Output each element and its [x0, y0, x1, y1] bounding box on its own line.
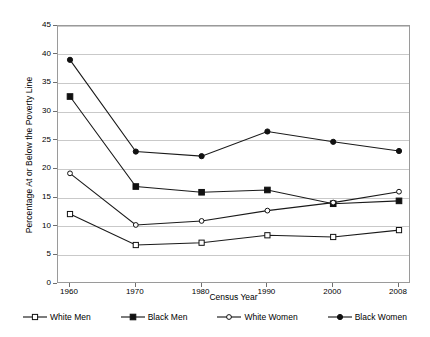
data-point [396, 148, 401, 153]
x-tick-mark [332, 283, 333, 287]
legend-item-black-women: Black Women [328, 312, 407, 322]
data-point [331, 139, 336, 144]
legend-item-white-men: White Men [23, 312, 91, 322]
y-tick-mark [53, 139, 57, 140]
data-point [68, 171, 73, 176]
data-point [199, 240, 204, 245]
data-point [133, 149, 138, 154]
y-tick-mark [53, 254, 57, 255]
legend-label: White Women [244, 312, 297, 322]
y-tick-label: 0 [11, 279, 51, 287]
y-tick-label: 40 [11, 50, 51, 58]
data-point [67, 94, 73, 100]
x-tick-mark [69, 283, 70, 287]
y-tick-label: 5 [11, 250, 51, 258]
series-white-women [68, 171, 402, 227]
chart-legend: White MenBlack MenWhite WomenBlack Women [0, 312, 430, 322]
data-point [199, 154, 204, 159]
data-point [397, 189, 402, 194]
y-tick-label: 25 [11, 136, 51, 144]
data-point [396, 198, 402, 204]
y-tick-mark [53, 168, 57, 169]
data-point [331, 200, 336, 205]
data-point [133, 242, 138, 247]
y-tick-label: 20 [11, 164, 51, 172]
plot-area [57, 25, 410, 283]
data-point [133, 223, 138, 228]
data-point [199, 219, 204, 224]
y-tick-mark [53, 197, 57, 198]
data-point [67, 211, 72, 216]
x-tick-mark [398, 283, 399, 287]
legend-marker-filled-circle-icon [328, 312, 352, 322]
x-tick-mark [135, 283, 136, 287]
legend-marker-open-square-icon [23, 312, 47, 322]
y-axis-title: Percentage At or Below the Poverty Line [24, 30, 34, 280]
series-black-men [67, 94, 402, 207]
data-point [265, 233, 270, 238]
y-tick-label: 30 [11, 107, 51, 115]
x-tick-mark [266, 283, 267, 287]
y-tick-mark [53, 53, 57, 54]
legend-label: Black Men [148, 312, 188, 322]
legend-label: Black Women [355, 312, 407, 322]
data-point [265, 187, 271, 193]
legend-item-black-men: Black Men [121, 312, 188, 322]
y-tick-mark [53, 225, 57, 226]
series-layer [58, 26, 411, 284]
data-point [265, 129, 270, 134]
y-tick-mark [53, 283, 57, 284]
x-axis-title: Census Year [57, 292, 410, 302]
data-point [396, 228, 401, 233]
y-tick-mark [53, 82, 57, 83]
data-point [265, 208, 270, 213]
y-tick-label: 15 [11, 193, 51, 201]
data-point [199, 189, 205, 195]
y-tick-mark [53, 25, 57, 26]
y-tick-label: 10 [11, 222, 51, 230]
data-point [133, 184, 139, 190]
x-tick-mark [201, 283, 202, 287]
series-black-women [67, 57, 401, 159]
y-tick-label: 45 [11, 21, 51, 29]
y-tick-label: 35 [11, 78, 51, 86]
series-white-men [67, 211, 401, 247]
y-tick-mark [53, 111, 57, 112]
legend-item-white-women: White Women [217, 312, 297, 322]
data-point [331, 234, 336, 239]
legend-marker-filled-square-icon [121, 312, 145, 322]
data-point [67, 57, 72, 62]
legend-label: White Men [50, 312, 91, 322]
poverty-line-chart: Percentage At or Below the Poverty Line … [0, 0, 430, 337]
legend-marker-open-circle-icon [217, 312, 241, 322]
